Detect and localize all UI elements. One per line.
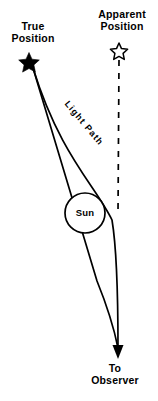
apparent-sight-dashed-line <box>118 60 119 214</box>
to-observer-label-line2: Observer <box>91 374 139 386</box>
sun-label: Sun <box>65 207 105 218</box>
to-observer-label-line1: To <box>109 362 121 374</box>
true-position-star-icon <box>19 53 40 73</box>
apparent-position-label-line1: Apparent <box>98 8 146 20</box>
apparent-position-label-line2: Position <box>100 20 143 32</box>
apparent-position-label: Apparent Position <box>86 8 158 33</box>
true-position-label: True Position <box>0 20 66 45</box>
true-position-label-line1: True <box>22 20 45 32</box>
true-position-label-line2: Position <box>11 32 54 44</box>
apparent-position-star-icon <box>110 43 127 59</box>
diagram-canvas <box>0 0 158 401</box>
to-observer-label: To Observer <box>72 362 158 387</box>
light-deflection-diagram: True Position Apparent Position Sun Ligh… <box>0 0 158 401</box>
observer-arrowhead-icon <box>113 345 124 359</box>
